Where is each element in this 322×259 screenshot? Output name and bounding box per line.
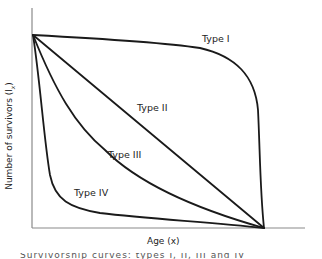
label-type-3: Type III <box>108 150 141 160</box>
caption-text: Survivorship curves: types I, II, III an… <box>20 253 320 259</box>
curve-type-2 <box>33 35 264 228</box>
x-axis-label: Age (x) <box>147 236 180 246</box>
caption-cut-off: Survivorship curves: types I, II, III an… <box>20 253 320 259</box>
y-axis-label-close: ) <box>4 82 14 86</box>
y-axis-label-main: Number of survivors (l <box>4 89 14 190</box>
y-axis-label-sub: x <box>9 86 16 90</box>
label-type-2: Type II <box>137 103 167 113</box>
label-type-1: Type I <box>202 34 230 44</box>
label-type-4: Type IV <box>74 188 108 198</box>
survivorship-chart <box>0 0 322 259</box>
y-axis-label: Number of survivors (lx) <box>4 82 16 190</box>
